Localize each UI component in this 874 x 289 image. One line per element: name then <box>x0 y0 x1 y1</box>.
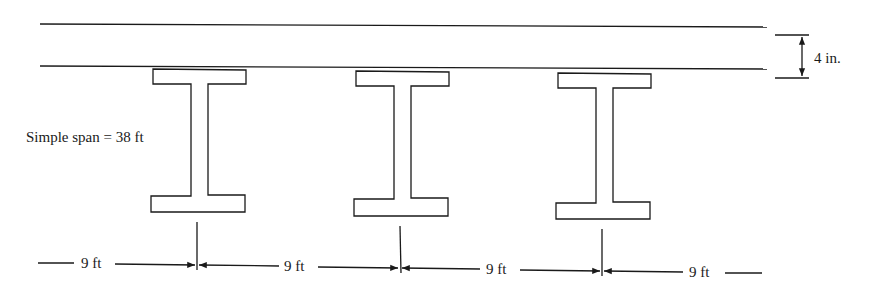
spacing-label-4: 9 ft <box>689 265 709 280</box>
spacing-label-3: 9 ft <box>486 262 506 277</box>
slab-thickness-label: 4 in. <box>814 51 841 66</box>
slab-bottom-line <box>40 66 767 69</box>
i-beam-girder-1 <box>151 69 246 212</box>
i-beam-girder-3 <box>556 73 651 219</box>
span-label: Simple span = 38 ft <box>26 130 144 145</box>
spacing-label-1: 9 ft <box>81 256 101 271</box>
i-beam-girder-2 <box>354 71 449 216</box>
slab-top-line <box>40 24 767 27</box>
spacing-label-2: 9 ft <box>284 259 304 274</box>
